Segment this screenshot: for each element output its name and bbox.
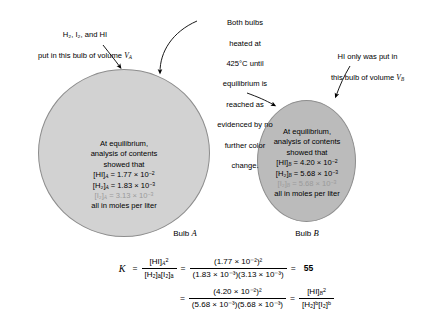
bulb-a-exp-hi: −2 bbox=[149, 170, 155, 176]
bulb-b-exp-h2: −3 bbox=[332, 168, 338, 174]
bulb-b-conc-row-hi: [HI]B = 4.20 × 10−2 bbox=[237, 158, 377, 168]
equation-sym-pow-a: 2 bbox=[165, 257, 168, 263]
label-top-left: H₂, I₂, and HI put in this bulb of volum… bbox=[10, 20, 160, 71]
bulb-a-label-text: Bulb bbox=[173, 229, 191, 238]
bulb-b-conc-row-h2: [H₂]B = 5.68 × 10−3 bbox=[237, 169, 377, 179]
equation-equals-5: = bbox=[290, 293, 295, 303]
equation-sym-species-b: HI bbox=[309, 287, 317, 296]
bulb-a-species-h2: H₂ bbox=[95, 181, 103, 190]
bulb-a-species-i2: I₂ bbox=[97, 191, 102, 200]
bulb-b-value-i2: 5.68 bbox=[299, 179, 314, 188]
bulb-a-exp-i2: −3 bbox=[148, 191, 154, 197]
bulb-b-label-text: Bulb bbox=[295, 229, 313, 238]
bulb-a-sub-hi: A bbox=[105, 173, 108, 179]
equation-symbolic-den-a: [H₂]ₐ[I₂]ₐ bbox=[142, 268, 177, 279]
bulb-a-conc-row-h2: [H₂]A = 1.83 × 10−3 bbox=[56, 181, 192, 191]
bulb-a-heading-2: analysis of contents bbox=[56, 149, 192, 159]
bulb-b-species-h2: H₂ bbox=[278, 169, 286, 178]
bulb-b-label: Bulb B bbox=[272, 228, 342, 238]
bulb-b-conc-row-i2: [I₂]B = 5.68 × 10−3 bbox=[237, 179, 377, 189]
bulb-a-value-i2: 3.13 bbox=[116, 191, 131, 200]
bulb-a-exp-h2: −3 bbox=[149, 180, 155, 186]
bulb-a-species-hi: HI bbox=[95, 170, 103, 179]
bulb-a-contents: At equilibrium, analysis of contents sho… bbox=[56, 139, 192, 212]
label-top-right: HI only was put in this bulb of volume V… bbox=[305, 42, 430, 93]
volume-a-subscript: A bbox=[129, 54, 132, 60]
bulb-b-exp-hi: −2 bbox=[332, 158, 338, 164]
bulb-b-heading-3: showed that bbox=[237, 148, 377, 158]
label-top-left-line2: put in this bulb of volume VA bbox=[10, 51, 160, 61]
equilibrium-bulbs-figure: H₂, I₂, and HI put in this bulb of volum… bbox=[0, 0, 432, 327]
bulb-a-label: Bulb A bbox=[150, 228, 220, 238]
bulb-b-species-hi: HI bbox=[278, 158, 286, 167]
equation-symbolic-den-b: [H₂]ᵇ[I₂]ᵇ bbox=[299, 298, 334, 309]
equation-sym-species-a: HI bbox=[152, 257, 160, 266]
bulb-a-value-hi: 1.77 bbox=[117, 170, 132, 179]
volume-b-subscript: B bbox=[401, 76, 404, 82]
equation-equals-1: = bbox=[133, 263, 138, 273]
bulb-b-label-letter: B bbox=[313, 228, 318, 238]
equation-equals-2: = bbox=[181, 263, 186, 273]
equation-numeric-fraction-a: (1.77 × 10⁻²)² (1.83 × 10⁻³)(3.13 × 10⁻³… bbox=[190, 257, 287, 279]
label-top-right-line2: this bulb of volume VB bbox=[305, 73, 430, 83]
equation-row-2: = (4.20 × 10⁻²)² (5.68 × 10⁻³)(5.68 × 10… bbox=[0, 283, 432, 313]
bulb-a-sub-h2: A bbox=[106, 184, 109, 190]
bulb-b-sub-i2: B bbox=[287, 182, 290, 188]
bulb-b-value-hi: 4.20 bbox=[300, 158, 315, 167]
bulb-b-species-i2: I₂ bbox=[280, 179, 285, 188]
bulb-b-exp-i2: −3 bbox=[331, 179, 337, 185]
equation-symbolic-num-a: [HI]A2 bbox=[147, 257, 172, 267]
arrow-callout-to-bulb-a bbox=[160, 21, 197, 72]
bulb-b-heading-1: At equilibrium, bbox=[237, 127, 377, 137]
equation-row-1: K = [HI]A2 [H₂]ₐ[I₂]ₐ = (1.77 × 10⁻²)² (… bbox=[0, 253, 432, 283]
label-top-right-line2-text: this bulb of volume bbox=[331, 73, 396, 82]
equilibrium-equation: K = [HI]A2 [H₂]ₐ[I₂]ₐ = (1.77 × 10⁻²)² (… bbox=[0, 253, 432, 313]
bulb-a-heading-1: At equilibrium, bbox=[56, 139, 192, 149]
callout-line-1: Both bulbs bbox=[193, 18, 297, 28]
label-top-right-line1: HI only was put in bbox=[305, 52, 430, 62]
callout-line-5: reached as bbox=[193, 100, 297, 110]
equation-equals-4: = bbox=[180, 293, 185, 303]
bulb-b-sub-h2: B bbox=[289, 172, 292, 178]
equation-numeric-num-a: (1.77 × 10⁻²)² bbox=[211, 257, 265, 267]
equation-numeric-fraction-b: (4.20 × 10⁻²)² (5.68 × 10⁻³)(5.68 × 10⁻³… bbox=[189, 287, 286, 309]
bulb-a-conc-row-hi: [HI]A = 1.77 × 10−2 bbox=[56, 170, 192, 180]
equation-symbolic-num-b: [HI]B2 bbox=[304, 287, 329, 297]
equation-k-symbol: K bbox=[119, 263, 126, 274]
bulb-b-contents: At equilibrium, analysis of contents sho… bbox=[237, 127, 377, 200]
equation-numeric-den-b: (5.68 × 10⁻³)(5.68 × 10⁻³) bbox=[189, 298, 286, 309]
equation-symbolic-fraction-a: [HI]A2 [H₂]ₐ[I₂]ₐ bbox=[142, 257, 177, 279]
equation-numeric-num-b: (4.20 × 10⁻²)² bbox=[210, 287, 264, 297]
bulb-b-sub-hi: B bbox=[288, 161, 291, 167]
label-top-left-line2-text: put in this bulb of volume bbox=[38, 51, 124, 60]
bulb-a-sub-i2: A bbox=[104, 194, 107, 200]
equation-symbolic-fraction-b: [HI]B2 [H₂]ᵇ[I₂]ᵇ bbox=[299, 287, 334, 309]
bulb-a-label-letter: A bbox=[191, 228, 196, 238]
equation-equals-3: = bbox=[291, 263, 296, 273]
callout-line-3: 425°C until bbox=[193, 59, 297, 69]
bulb-a-heading-3: showed that bbox=[56, 160, 192, 170]
bulb-a-value-h2: 1.83 bbox=[117, 181, 132, 190]
bulb-a-conc-row-i2: [I₂]A = 3.13 × 10−3 bbox=[56, 191, 192, 201]
bulb-a-footer: all in moles per liter bbox=[56, 201, 192, 211]
equation-sym-pow-b: 2 bbox=[323, 287, 326, 293]
equation-result-a: 55 bbox=[304, 263, 313, 273]
callout-line-2: heated at bbox=[193, 39, 297, 49]
label-top-left-line1: H₂, I₂, and HI bbox=[10, 30, 160, 40]
bulb-b-value-h2: 5.68 bbox=[300, 169, 315, 178]
bulb-b-footer: all in moles per liter bbox=[237, 189, 377, 199]
callout-line-4: equilibrium is bbox=[193, 79, 297, 89]
equation-numeric-den-a: (1.83 × 10⁻³)(3.13 × 10⁻³) bbox=[190, 268, 287, 279]
bulb-b-heading-2: analysis of contents bbox=[237, 137, 377, 147]
